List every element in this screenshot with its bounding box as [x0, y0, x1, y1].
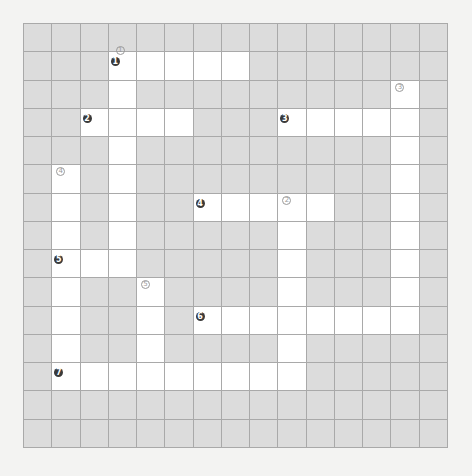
crossword-cell-blocked: [278, 391, 305, 418]
crossword-cell-open[interactable]: [307, 307, 334, 334]
crossword-cell-blocked: [420, 81, 447, 108]
crossword-cell-open[interactable]: [278, 222, 305, 249]
crossword-cell-blocked: [363, 165, 390, 192]
crossword-cell-blocked: [391, 391, 418, 418]
crossword-cell-open[interactable]: 3: [278, 109, 305, 136]
crossword-cell-open[interactable]: 6: [194, 307, 221, 334]
crossword-cell-open[interactable]: [137, 109, 164, 136]
crossword-cell-open[interactable]: [137, 307, 164, 334]
crossword-cell-open[interactable]: [307, 194, 334, 221]
crossword-cell-blocked: [307, 222, 334, 249]
crossword-cell-blocked: [363, 250, 390, 277]
crossword-cell-open[interactable]: [109, 250, 136, 277]
crossword-cell-blocked: [81, 222, 108, 249]
crossword-cell-open[interactable]: [307, 109, 334, 136]
crossword-grid: 113234425567: [23, 23, 448, 448]
crossword-cell-open[interactable]: [278, 250, 305, 277]
crossword-cell-open[interactable]: [165, 363, 192, 390]
crossword-cell-open[interactable]: [278, 278, 305, 305]
crossword-cell-open[interactable]: [391, 307, 418, 334]
crossword-cell-open[interactable]: [391, 250, 418, 277]
crossword-cell-open[interactable]: [278, 335, 305, 362]
crossword-cell-open[interactable]: [81, 363, 108, 390]
across-clue-number-marker: 5: [54, 255, 63, 264]
crossword-cell-open[interactable]: 5: [137, 278, 164, 305]
crossword-cell-open[interactable]: 2: [81, 109, 108, 136]
crossword-cell-blocked: [335, 278, 362, 305]
crossword-cell-blocked: [165, 307, 192, 334]
crossword-cell-open[interactable]: [391, 194, 418, 221]
crossword-cell-blocked: [194, 109, 221, 136]
crossword-cell-open[interactable]: [165, 52, 192, 79]
crossword-cell-open[interactable]: [81, 250, 108, 277]
crossword-cell-open[interactable]: [137, 335, 164, 362]
crossword-cell-open[interactable]: [222, 307, 249, 334]
crossword-cell-blocked: [222, 391, 249, 418]
crossword-cell-open[interactable]: 7: [52, 363, 79, 390]
crossword-cell-blocked: [165, 81, 192, 108]
crossword-cell-blocked: [222, 165, 249, 192]
crossword-cell-open[interactable]: 4: [52, 165, 79, 192]
crossword-cell-open[interactable]: [278, 363, 305, 390]
crossword-cell-open[interactable]: [194, 52, 221, 79]
crossword-cell-open[interactable]: [109, 109, 136, 136]
crossword-cell-open[interactable]: [109, 363, 136, 390]
crossword-cell-open[interactable]: [391, 109, 418, 136]
crossword-cell-blocked: [194, 81, 221, 108]
crossword-cell-open[interactable]: [335, 307, 362, 334]
crossword-cell-open[interactable]: 2: [278, 194, 305, 221]
crossword-cell-open[interactable]: [194, 363, 221, 390]
crossword-cell-open[interactable]: [137, 363, 164, 390]
crossword-cell-open[interactable]: [109, 81, 136, 108]
crossword-cell-open[interactable]: [52, 307, 79, 334]
crossword-cell-open[interactable]: [335, 109, 362, 136]
crossword-cell-blocked: [307, 420, 334, 447]
crossword-cell-open[interactable]: [278, 307, 305, 334]
crossword-cell-blocked: [420, 52, 447, 79]
crossword-cell-open[interactable]: [250, 363, 277, 390]
crossword-cell-blocked: [307, 335, 334, 362]
crossword-cell-blocked: [24, 391, 51, 418]
crossword-cell-blocked: [194, 137, 221, 164]
crossword-cell-open[interactable]: [250, 307, 277, 334]
crossword-cell-open[interactable]: [391, 222, 418, 249]
crossword-cell-blocked: [335, 194, 362, 221]
crossword-cell-open[interactable]: 3: [391, 81, 418, 108]
crossword-cell-open[interactable]: [363, 109, 390, 136]
crossword-cell-open[interactable]: [52, 335, 79, 362]
crossword-cell-open[interactable]: [52, 194, 79, 221]
crossword-cell-blocked: [420, 363, 447, 390]
crossword-cell-open[interactable]: [222, 363, 249, 390]
crossword-cell-open[interactable]: [222, 194, 249, 221]
crossword-cell-open[interactable]: [52, 222, 79, 249]
crossword-cell-blocked: [222, 250, 249, 277]
crossword-cell-open[interactable]: [165, 109, 192, 136]
crossword-cell-open[interactable]: [109, 222, 136, 249]
crossword-cell-blocked: [109, 278, 136, 305]
crossword-cell-open[interactable]: [391, 165, 418, 192]
crossword-cell-open[interactable]: 11: [109, 52, 136, 79]
crossword-cell-open[interactable]: [109, 165, 136, 192]
crossword-cell-open[interactable]: [137, 52, 164, 79]
crossword-cell-open[interactable]: [250, 194, 277, 221]
crossword-cell-open[interactable]: 5: [52, 250, 79, 277]
crossword-cell-blocked: [250, 250, 277, 277]
crossword-cell-open[interactable]: [109, 194, 136, 221]
crossword-cell-open[interactable]: [391, 278, 418, 305]
crossword-cell-blocked: [109, 335, 136, 362]
crossword-cell-open[interactable]: [109, 137, 136, 164]
crossword-cell-open[interactable]: [391, 137, 418, 164]
crossword-cell-blocked: [250, 137, 277, 164]
crossword-cell-open[interactable]: 4: [194, 194, 221, 221]
crossword-cell-blocked: [137, 391, 164, 418]
crossword-cell-blocked: [165, 194, 192, 221]
crossword-cell-blocked: [335, 24, 362, 51]
crossword-cell-blocked: [194, 420, 221, 447]
crossword-cell-blocked: [137, 137, 164, 164]
crossword-cell-open[interactable]: [222, 52, 249, 79]
crossword-cell-blocked: [81, 307, 108, 334]
crossword-cell-blocked: [335, 420, 362, 447]
crossword-cell-open[interactable]: [363, 307, 390, 334]
crossword-cell-blocked: [335, 81, 362, 108]
crossword-cell-open[interactable]: [52, 278, 79, 305]
